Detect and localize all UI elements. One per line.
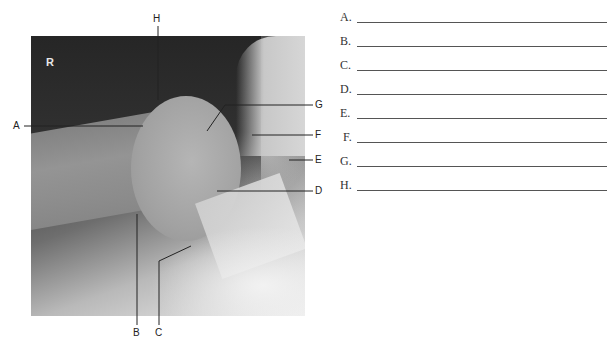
answer-blanks: A. B. C. D. E. F. G. H. [340,0,607,339]
callout-a: A [13,121,20,131]
answer-row-h[interactable]: H. [340,178,607,198]
shoulder-xray-figure: R H A G F E D B C [0,0,330,339]
callout-g: G [315,100,323,110]
answer-row-d[interactable]: D. [340,82,607,102]
callout-b: B [133,328,140,338]
answer-blank-line[interactable] [357,94,607,95]
answer-row-g[interactable]: G. [340,154,607,174]
answer-blank-line[interactable] [357,166,607,167]
callout-c: C [155,328,162,338]
callout-e: E [315,155,322,165]
answer-blank-line[interactable] [357,142,607,143]
leader-lines [0,0,330,339]
answer-blank-line[interactable] [357,118,607,119]
answer-row-b[interactable]: B. [340,34,607,54]
answer-blank-line[interactable] [357,190,607,191]
answer-blank-line[interactable] [357,22,607,23]
answer-row-e[interactable]: E. [340,106,607,126]
answer-blank-line[interactable] [357,70,607,71]
callout-d: D [315,186,322,196]
callout-h: H [153,14,160,24]
callout-f: F [315,130,321,140]
answer-row-a[interactable]: A. [340,10,607,30]
answer-row-c[interactable]: C. [340,58,607,78]
answer-blank-line[interactable] [357,46,607,47]
answer-row-f[interactable]: F. [340,130,607,150]
